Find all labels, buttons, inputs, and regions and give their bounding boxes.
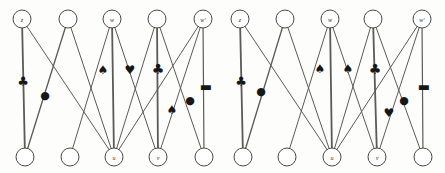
graph-node-z: z: [13, 10, 31, 28]
graph-edge: [157, 28, 158, 148]
token-marker-icon: ●: [399, 94, 409, 107]
node-circle: [148, 10, 166, 28]
graph-node-w: w: [321, 10, 339, 28]
spade-marker-icon: ♠: [343, 62, 354, 76]
token-marker-icon: ●: [40, 89, 50, 102]
node-circle: [414, 148, 432, 166]
node-label: v: [376, 155, 379, 161]
graph-edge: [333, 28, 374, 149]
node-label: u: [113, 155, 116, 161]
graph-node: [278, 148, 296, 166]
bar-marker-icon: ▬: [418, 79, 430, 94]
graph-node: [276, 10, 294, 28]
graph-node: [148, 10, 166, 28]
node-circle: [59, 10, 77, 28]
graph-edge: [335, 28, 371, 149]
graph-node-w: w: [103, 10, 121, 28]
graph-edge: [73, 28, 110, 149]
graph-node: [61, 148, 79, 166]
graph-node-v: v: [368, 148, 386, 166]
token-marker-icon: ●: [185, 94, 195, 107]
heart-marker-icon: ♥: [125, 63, 136, 77]
node-circle: [278, 148, 296, 166]
graph-node: [195, 148, 213, 166]
spade-marker-icon: ♠: [98, 63, 109, 77]
graph-edge: [330, 28, 332, 148]
bar-marker-icon: ▬: [200, 79, 212, 94]
node-label: w': [200, 17, 206, 23]
club-marker-icon: ♣: [152, 61, 165, 77]
graph-node-w-prime: w': [413, 10, 431, 28]
graph-node: [16, 148, 34, 166]
spade-marker-icon: ♠: [167, 103, 178, 117]
node-circle: [16, 148, 34, 166]
graph-node: [414, 148, 432, 166]
club-marker-icon: ♣: [17, 74, 29, 89]
graph-node-u: u: [323, 148, 341, 166]
graph-edge: [161, 28, 200, 149]
node-label: v: [157, 155, 160, 161]
node-circle: [276, 10, 294, 28]
node-circle: [195, 148, 213, 166]
graph-node: [234, 148, 252, 166]
graph-node-u: u: [105, 148, 123, 166]
graph-node-w-prime: w': [194, 10, 212, 28]
node-label: w: [110, 17, 114, 23]
club-marker-icon: ♣: [235, 74, 247, 89]
club-marker-icon: ♣: [369, 61, 382, 77]
markers-layer: ♣●♠♥♣♠●▬♣●♠♠♣●♥▬: [17, 61, 430, 120]
graph-node-z: z: [231, 10, 249, 28]
node-circle: [364, 10, 382, 28]
node-circle: [234, 148, 252, 166]
token-marker-icon: ●: [256, 85, 266, 98]
node-circle: [61, 148, 79, 166]
node-label: w: [328, 17, 332, 23]
graph-edge: [290, 28, 328, 149]
graph-edge: [373, 28, 376, 148]
figure-container: ♣●♠♥♣♠●▬♣●♠♠♣●♥▬ zww'uvzww'uv: [0, 0, 445, 173]
graph-edge: [112, 28, 114, 148]
graph-node: [364, 10, 382, 28]
edges-layer: [22, 26, 423, 149]
node-label: u: [331, 155, 334, 161]
node-label: w': [419, 17, 425, 23]
spade-marker-icon: ♠: [315, 62, 326, 76]
heart-marker-icon: ♥: [384, 106, 395, 120]
bipartite-graph-figure: ♣●♠♥♣♠●▬♣●♠♠♣●♥▬ zww'uvzww'uv: [0, 0, 445, 173]
graph-node-v: v: [149, 148, 167, 166]
graph-node: [59, 10, 77, 28]
